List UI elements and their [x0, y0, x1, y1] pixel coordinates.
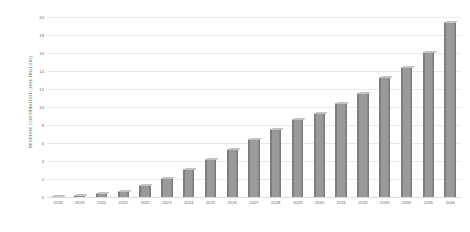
- bar-top-face: [119, 190, 132, 192]
- x-axis-tick-label: 2031: [330, 200, 352, 206]
- bar-top-face: [336, 102, 349, 104]
- bar-top-face: [249, 138, 262, 140]
- bar-top-face: [162, 177, 175, 179]
- x-axis-tick-label: 2024: [178, 200, 200, 206]
- x-axis-tick-label: 2021: [112, 200, 134, 206]
- bar[interactable]: [292, 119, 303, 197]
- bar-top-face: [206, 158, 219, 160]
- bar[interactable]: [227, 149, 238, 197]
- bar-slot: [161, 17, 172, 197]
- bar-top-face: [402, 66, 415, 68]
- bar-top-face: [53, 195, 66, 197]
- bar-top-face: [140, 184, 153, 186]
- bar-slot: [335, 17, 346, 197]
- x-axis-tick-label: 2028: [265, 200, 287, 206]
- bar[interactable]: [161, 178, 172, 197]
- y-axis-tick-label: 4: [26, 159, 44, 164]
- bar[interactable]: [357, 93, 368, 197]
- bar[interactable]: [444, 22, 455, 197]
- bar-slot: [52, 17, 63, 197]
- bar-top-face: [75, 194, 88, 196]
- bar[interactable]: [205, 159, 216, 197]
- bar[interactable]: [74, 195, 85, 197]
- bar-top-face: [445, 21, 458, 23]
- bar[interactable]: [248, 139, 259, 197]
- x-axis-tick-labels: 2018201920202021202220232024202520262027…: [47, 200, 461, 212]
- x-axis-tick-label: 2026: [221, 200, 243, 206]
- x-axis-tick-label: 2034: [396, 200, 418, 206]
- bar-slot: [118, 17, 129, 197]
- x-axis-tick-label: 2027: [243, 200, 265, 206]
- bar-top-face: [293, 118, 306, 120]
- bar-slot: [248, 17, 259, 197]
- y-axis-tick-label: 8: [26, 123, 44, 128]
- bar-slot: [183, 17, 194, 197]
- bar-top-face: [358, 92, 371, 94]
- y-axis-tick-labels: 02468101214161820: [26, 17, 44, 197]
- bar[interactable]: [183, 169, 194, 197]
- bar[interactable]: [423, 52, 434, 197]
- bar[interactable]: [314, 113, 325, 197]
- bar-top-face: [271, 128, 284, 130]
- bar-top-face: [424, 51, 437, 53]
- bar[interactable]: [139, 185, 150, 197]
- x-axis-tick-label: 2020: [91, 200, 113, 206]
- x-axis-tick-label: 2036: [439, 200, 461, 206]
- bar-top-face: [228, 148, 241, 150]
- x-axis-tick-label: 2032: [352, 200, 374, 206]
- bar[interactable]: [118, 191, 129, 197]
- x-axis-tick-label: 2030: [308, 200, 330, 206]
- bar-slot: [357, 17, 368, 197]
- x-axis-tick-label: 2023: [156, 200, 178, 206]
- bar-slot: [74, 17, 85, 197]
- x-axis-tick-label: 2035: [417, 200, 439, 206]
- bar-slot: [292, 17, 303, 197]
- bar-slot: [379, 17, 390, 197]
- x-axis-tick-label: 2022: [134, 200, 156, 206]
- bar[interactable]: [52, 196, 63, 197]
- bar-chart: REVENUE CONTRIBUTION (US$ TRILLION) 0246…: [0, 0, 470, 232]
- gridline: [47, 197, 461, 198]
- bar-slot: [423, 17, 434, 197]
- y-axis-tick-label: 20: [26, 15, 44, 20]
- x-axis-tick-label: 2033: [374, 200, 396, 206]
- bar-top-face: [315, 112, 328, 114]
- plot-area: [47, 17, 461, 197]
- bar[interactable]: [379, 77, 390, 197]
- bar-slot: [444, 17, 455, 197]
- bar-slot: [139, 17, 150, 197]
- y-axis-tick-label: 14: [26, 69, 44, 74]
- bar-top-face: [97, 192, 110, 194]
- bar-slot: [227, 17, 238, 197]
- bar[interactable]: [401, 67, 412, 197]
- bar-slot: [205, 17, 216, 197]
- x-axis-tick-label: 2018: [47, 200, 69, 206]
- bar[interactable]: [270, 129, 281, 197]
- bar-slot: [270, 17, 281, 197]
- y-axis-tick-label: 6: [26, 141, 44, 146]
- y-axis-tick-label: 2: [26, 177, 44, 182]
- y-axis-tick-label: 10: [26, 105, 44, 110]
- y-axis-tick-label: 0: [26, 195, 44, 200]
- bar-slot: [96, 17, 107, 197]
- bar[interactable]: [96, 193, 107, 197]
- y-axis-tick-label: 18: [26, 33, 44, 38]
- bar-slot: [314, 17, 325, 197]
- bar[interactable]: [335, 103, 346, 197]
- bar-top-face: [184, 168, 197, 170]
- bar-top-face: [380, 76, 393, 78]
- x-axis-tick-label: 2029: [287, 200, 309, 206]
- x-axis-tick-label: 2019: [69, 200, 91, 206]
- y-axis-tick-label: 16: [26, 51, 44, 56]
- x-axis-tick-label: 2025: [200, 200, 222, 206]
- y-axis-tick-label: 12: [26, 87, 44, 92]
- bar-slot: [401, 17, 412, 197]
- bar-series: [47, 17, 461, 197]
